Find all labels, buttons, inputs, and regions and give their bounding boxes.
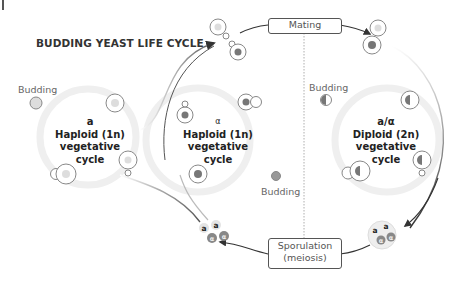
spore-alpha-2: α [222, 233, 227, 241]
budding-label-diploid: Budding [309, 82, 348, 93]
ascus-spore-a-1: a [372, 226, 377, 235]
ascus-spore-alpha-1: α [379, 237, 384, 245]
cycle-label-haploid-a: a Haploid (1n) vegetative cycle [52, 116, 128, 166]
spore-a-2: a [213, 221, 218, 230]
budding-label-alpha: Budding [261, 186, 300, 197]
cycle-label-haploid-alpha: α Haploid (1n) vegetative cycle [180, 116, 256, 166]
sporulation-label: Sporulation [269, 240, 341, 252]
sporulation-box: Sporulation (meiosis) [268, 238, 342, 269]
ascus-spore-alpha-2: α [389, 234, 394, 242]
spore-a-1: a [201, 224, 206, 233]
budding-label-a: Budding [18, 84, 57, 95]
meiosis-label: (meiosis) [269, 252, 341, 264]
cycle-label-diploid: a/α Diploid (2n) vegetative cycle [348, 116, 424, 166]
mating-box: Mating [268, 18, 342, 34]
spore-alpha-1: α [210, 235, 215, 243]
ascus-spore-a-2: a [383, 222, 388, 231]
diagram-title: BUDDING YEAST LIFE CYCLE [36, 37, 204, 49]
